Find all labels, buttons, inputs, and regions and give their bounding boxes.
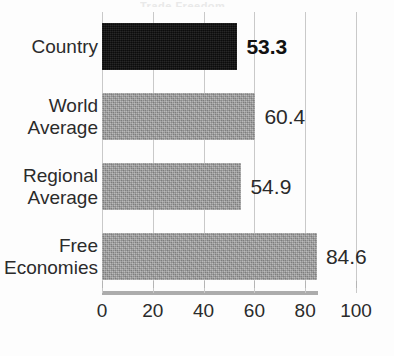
bar-world-average xyxy=(102,93,255,140)
bar-row: 54.9 xyxy=(102,163,356,210)
bar-row: 53.3 xyxy=(102,23,356,70)
x-tick-40 xyxy=(204,281,205,288)
x-tick-0 xyxy=(102,281,103,288)
value-label-world-average: 60.4 xyxy=(264,105,305,129)
bar-chart: Trade Freedom 53.360.454.984.6 020406080… xyxy=(0,0,394,356)
category-label-free-economies: Free Economies xyxy=(0,235,98,279)
x-tick-80 xyxy=(305,281,306,288)
value-label-regional-average: 54.9 xyxy=(250,175,291,199)
bar-row: 84.6 xyxy=(102,233,356,280)
chart-title-remnant: Trade Freedom xyxy=(140,0,250,7)
plot-area: 53.360.454.984.6 xyxy=(102,12,356,293)
bar-regional-average xyxy=(102,163,241,210)
category-label-country: Country xyxy=(0,36,98,58)
x-axis-label-20: 20 xyxy=(142,300,163,322)
bar-country xyxy=(102,23,237,70)
x-axis-label-100: 100 xyxy=(340,300,372,322)
x-tick-20 xyxy=(153,281,154,288)
bar-free-economies xyxy=(102,233,317,280)
x-tick-60 xyxy=(254,281,255,288)
x-axis-label-0: 0 xyxy=(97,300,108,322)
x-axis-label-80: 80 xyxy=(295,300,316,322)
bar-row: 60.4 xyxy=(102,93,356,140)
x-tick-100 xyxy=(356,281,357,288)
x-axis-label-60: 60 xyxy=(244,300,265,322)
x-axis-label-40: 40 xyxy=(193,300,214,322)
value-label-free-economies: 84.6 xyxy=(326,245,367,269)
category-label-world-average: World Average xyxy=(0,95,98,139)
value-label-country: 53.3 xyxy=(246,35,287,59)
category-label-regional-average: Regional Average xyxy=(0,165,98,209)
